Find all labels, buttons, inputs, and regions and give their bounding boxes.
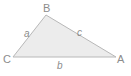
side-label-b: b: [57, 61, 63, 71]
side-label-a: a: [24, 29, 30, 39]
vertex-label-c: C: [3, 54, 11, 65]
triangle-shape-svg: [0, 0, 131, 76]
vertex-label-b: B: [43, 3, 50, 14]
triangle-diagram: B C A a b c: [0, 0, 131, 76]
vertex-label-a: A: [117, 54, 124, 65]
side-label-c: c: [77, 28, 82, 38]
